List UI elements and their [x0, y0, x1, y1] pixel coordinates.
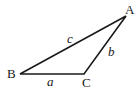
side-label-b: b [108, 44, 115, 59]
triangle-diagram: A B C a b c [0, 0, 136, 88]
vertex-label-a: A [125, 2, 135, 17]
side-label-c: c [67, 31, 73, 46]
vertex-label-b: B [7, 66, 16, 81]
vertex-label-c: C [82, 75, 91, 88]
side-label-a: a [47, 74, 54, 88]
